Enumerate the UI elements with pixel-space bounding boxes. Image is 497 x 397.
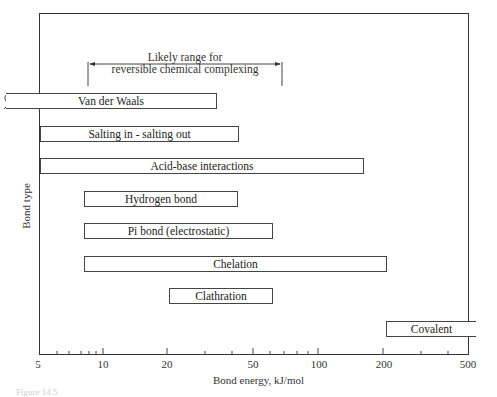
bar-clathration: Clathration (169, 288, 273, 304)
tick-label-5: 5 (35, 358, 41, 370)
tick-label-200: 200 (376, 358, 393, 370)
figure-caption: Figure 14.5 (16, 387, 58, 397)
tick-label-20: 20 (162, 358, 173, 370)
bar-salting: Salting in - salting out (40, 126, 239, 142)
x-axis-label: Bond energy, kJ/mol (0, 374, 497, 386)
bar-acid-base: Acid-base interactions (40, 158, 364, 174)
tick-label-50: 50 (248, 358, 259, 370)
tick-label-100: 100 (311, 358, 328, 370)
bar-pi-bond: Pi bond (electrostatic) (84, 223, 273, 239)
tick-label-10: 10 (98, 358, 109, 370)
bar-chelation: Chelation (84, 256, 387, 272)
bar-hydrogen-bond: Hydrogen bond (84, 191, 238, 207)
bar-covalent: Covalent (386, 321, 476, 337)
bar-van-der-waals: Van der Waals (6, 93, 217, 109)
tick-label-500: 500 (460, 358, 477, 370)
y-axis-label: Bond type (20, 176, 32, 236)
